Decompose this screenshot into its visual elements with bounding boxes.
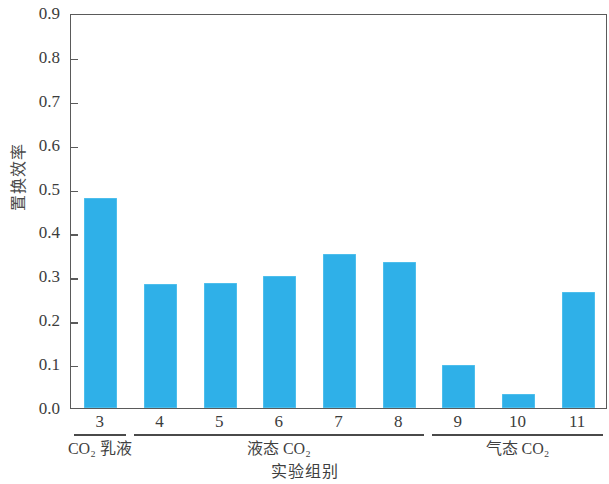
y-axis-tick-label: 0.6	[0, 137, 60, 154]
group-label: CO₂ 乳液	[68, 438, 132, 460]
x-axis-tick-labels: 34567891011	[70, 411, 607, 435]
bar	[383, 262, 416, 408]
y-axis-tick-label: 0.0	[0, 400, 60, 417]
group-bracket-rule	[432, 434, 603, 436]
y-axis-tick-label: 0.9	[0, 5, 60, 22]
plot-area	[70, 14, 607, 409]
y-axis-tick-mark	[71, 191, 78, 192]
group-bracket-rule	[74, 434, 126, 436]
y-axis-tick-label: 0.8	[0, 49, 60, 66]
bar	[442, 365, 475, 408]
x-axis-tick-label: 3	[96, 411, 105, 433]
x-axis-tick-label: 4	[155, 411, 164, 433]
x-axis-tick-label: 7	[334, 411, 343, 433]
x-axis-tick-label: 10	[509, 411, 526, 433]
y-axis-tick-label: 0.2	[0, 312, 60, 329]
y-axis-tick-mark	[71, 103, 78, 104]
group-label: 液态 CO₂	[247, 438, 311, 460]
bar	[323, 254, 356, 408]
y-axis-tick-mark	[71, 59, 78, 60]
group-label: 气态 CO₂	[486, 438, 550, 460]
bars-layer	[71, 15, 606, 408]
x-axis-tick-label: 5	[215, 411, 224, 433]
group-bracket-rule	[134, 434, 424, 436]
bar-chart-figure: 置换效率 0.00.10.20.30.40.50.60.70.80.9 3456…	[0, 0, 609, 484]
x-axis-tick-label: 8	[394, 411, 403, 433]
y-axis-tick-mark	[71, 278, 78, 279]
y-axis-tick-mark	[71, 322, 78, 323]
bar	[502, 394, 535, 408]
y-axis-tick-label: 0.5	[0, 181, 60, 198]
bar	[204, 283, 237, 408]
bar	[263, 276, 296, 408]
x-axis-tick-label: 11	[569, 411, 585, 433]
y-axis-tick-labels: 0.00.10.20.30.40.50.60.70.80.9	[0, 0, 68, 420]
y-axis-tick-label: 0.1	[0, 356, 60, 373]
x-axis-tick-label: 6	[275, 411, 284, 433]
x-axis-title: 实验组别	[0, 458, 609, 482]
y-axis-tick-label: 0.7	[0, 93, 60, 110]
bar	[144, 284, 177, 408]
bar	[562, 292, 595, 408]
y-axis-tick-label: 0.4	[0, 224, 60, 241]
y-axis-tick-mark	[71, 147, 78, 148]
x-axis-tick-label: 9	[454, 411, 463, 433]
bar	[84, 198, 117, 408]
y-axis-tick-mark	[71, 366, 78, 367]
y-axis-tick-mark	[71, 234, 78, 235]
y-axis-tick-label: 0.3	[0, 268, 60, 285]
